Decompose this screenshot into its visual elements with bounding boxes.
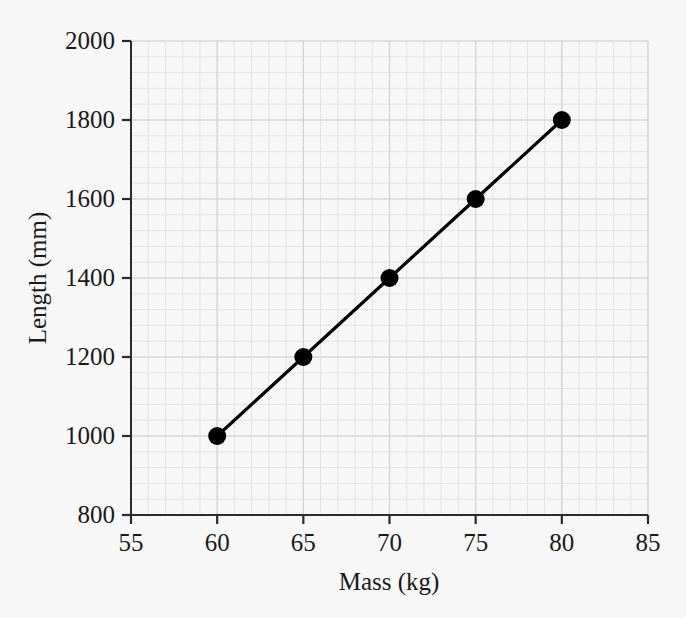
y-tick-label: 1400 [65, 264, 115, 291]
x-tick-label: 70 [377, 529, 402, 556]
data-point-marker [208, 427, 226, 445]
y-axis-title: Length (mm) [24, 212, 52, 345]
x-tick-label: 65 [291, 529, 316, 556]
y-tick-label: 1600 [65, 185, 115, 212]
chart-figure: 55606570758085 8001000120014001600180020… [0, 0, 686, 618]
data-point-marker [467, 190, 485, 208]
x-tick-label: 80 [549, 529, 574, 556]
x-tick-label: 55 [119, 529, 144, 556]
line-chart: 55606570758085 8001000120014001600180020… [0, 0, 686, 618]
y-tick-label: 1200 [65, 343, 115, 370]
y-tick-label: 2000 [65, 27, 115, 54]
x-tick-label: 85 [636, 529, 661, 556]
data-point-marker [381, 269, 399, 287]
data-point-marker [553, 111, 571, 129]
x-axis-title: Mass (kg) [339, 568, 440, 596]
x-tick-label: 60 [205, 529, 230, 556]
x-tick-label: 75 [463, 529, 488, 556]
data-point-marker [294, 348, 312, 366]
y-tick-label: 800 [78, 501, 116, 528]
y-tick-label: 1800 [65, 106, 115, 133]
y-tick-label: 1000 [65, 422, 115, 449]
